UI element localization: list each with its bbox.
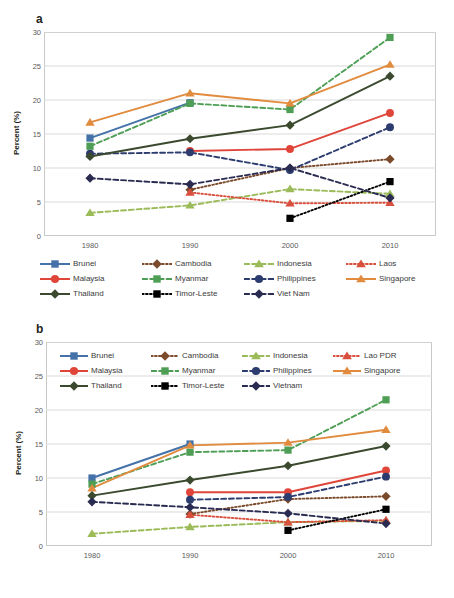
data-point: [382, 506, 389, 513]
x-tick-label: 1980: [84, 551, 101, 560]
legend-swatch: [333, 350, 361, 362]
legend-item-timor-leste[interactable]: Timor-Leste: [151, 378, 242, 393]
legend-item-philippines[interactable]: Philippines: [244, 271, 346, 286]
data-point: [186, 148, 194, 156]
legend-swatch: [60, 380, 88, 392]
legend-item-indonesia[interactable]: Indonesia: [242, 348, 333, 363]
legend-a: BruneiCambodiaIndonesiaLaosMalaysiaMyanm…: [40, 256, 448, 301]
legend-label: Philippines: [273, 366, 312, 375]
legend-item-singapore[interactable]: Singapore: [333, 363, 424, 378]
y-tick-label: 10: [33, 164, 41, 173]
y-tick-label: 15: [35, 440, 43, 449]
legend-swatch: [244, 273, 274, 285]
plot-area-b: 051015202530 1980199020002010 BruneiCamb…: [46, 342, 432, 546]
legend-label: Vietnam: [273, 381, 302, 390]
legend-item-timor-leste[interactable]: Timor-Leste: [142, 286, 244, 301]
legend-label: Myanmar: [175, 274, 208, 283]
data-point: [386, 109, 394, 117]
legend-item-myanmar[interactable]: Myanmar: [151, 363, 242, 378]
y-tick-label: 20: [35, 406, 43, 415]
y-tick-label: 30: [35, 338, 43, 347]
legend-item-philippines[interactable]: Philippines: [242, 363, 333, 378]
legend-label: Singapore: [364, 366, 400, 375]
legend-label: Lao PDR: [364, 351, 396, 360]
legend-swatch: [244, 258, 274, 270]
legend-swatch: [242, 365, 270, 377]
legend-item-lao-pdr[interactable]: Lao PDR: [333, 348, 424, 363]
legend-item-malaysia[interactable]: Malaysia: [40, 271, 142, 286]
legend-label: Timor-Leste: [182, 381, 224, 390]
legend-item-thailand[interactable]: Thailand: [40, 286, 142, 301]
y-tick-label: 25: [35, 372, 43, 381]
legend-item-malaysia[interactable]: Malaysia: [60, 363, 151, 378]
data-point: [186, 488, 194, 496]
legend-label: Laos: [379, 259, 396, 268]
data-point: [286, 145, 294, 153]
legend-swatch: [60, 365, 88, 377]
legend-item-brunei[interactable]: Brunei: [60, 348, 151, 363]
x-tick-label: 1980: [82, 241, 99, 250]
y-tick-label: 10: [35, 474, 43, 483]
legend-swatch: [244, 288, 274, 300]
legend-label: Timor-Leste: [175, 289, 217, 298]
chart-canvas-a: [44, 32, 436, 236]
legend-label: Thailand: [73, 289, 104, 298]
legend-label: Singapore: [379, 274, 415, 283]
data-point: [86, 134, 93, 141]
legend-item-singapore[interactable]: Singapore: [346, 271, 448, 286]
legend-swatch: [346, 273, 376, 285]
legend-label: Brunei: [91, 351, 114, 360]
y-axis-label-a: Percent (%): [12, 111, 21, 155]
legend-item-indonesia[interactable]: Indonesia: [244, 256, 346, 271]
legend-item-vietnam[interactable]: Vietnam: [242, 378, 333, 393]
legend-label: Malaysia: [91, 366, 123, 375]
legend-swatch: [40, 288, 70, 300]
legend-label: Malaysia: [73, 274, 105, 283]
y-tick-label: 15: [33, 130, 41, 139]
legend-item-thailand[interactable]: Thailand: [60, 378, 151, 393]
legend-item-myanmar[interactable]: Myanmar: [142, 271, 244, 286]
legend-swatch: [142, 288, 172, 300]
y-tick-label: 5: [39, 508, 43, 517]
legend-label: Brunei: [73, 259, 96, 268]
legend-swatch: [142, 258, 172, 270]
legend-swatch: [242, 380, 270, 392]
legend-swatch: [151, 350, 179, 362]
data-point: [186, 100, 193, 107]
data-point: [284, 493, 292, 501]
y-axis-label-b: Percent (%): [14, 431, 23, 475]
y-tick-label: 30: [33, 28, 41, 37]
legend-label: Thailand: [91, 381, 122, 390]
legend-swatch: [346, 258, 376, 270]
x-tick-label: 2010: [378, 551, 395, 560]
data-point: [382, 473, 390, 481]
panel-letter-a: a: [36, 12, 43, 26]
x-tick-label: 2000: [280, 551, 297, 560]
legend-item-brunei[interactable]: Brunei: [40, 256, 142, 271]
data-point: [286, 106, 293, 113]
legend-swatch: [333, 365, 361, 377]
legend-swatch: [151, 365, 179, 377]
x-tick-label: 1990: [182, 241, 199, 250]
y-tick-label: 0: [39, 542, 43, 551]
data-point: [382, 396, 389, 403]
data-point: [186, 496, 194, 504]
data-point: [286, 215, 293, 222]
legend-item-cambodia[interactable]: Cambodia: [142, 256, 244, 271]
plot-area-a: 051015202530 1980199020002010: [44, 32, 436, 236]
legend-label: Myanmar: [182, 366, 215, 375]
y-tick-label: 20: [33, 96, 41, 105]
panel-a: a Percent (%) 051015202530 1980199020002…: [0, 0, 454, 300]
data-point: [284, 447, 291, 454]
data-point: [386, 178, 393, 185]
y-tick-label: 5: [37, 198, 41, 207]
legend-label: Philippines: [277, 274, 316, 283]
legend-label: Indonesia: [273, 351, 308, 360]
legend-label: Cambodia: [175, 259, 211, 268]
legend-item-cambodia[interactable]: Cambodia: [151, 348, 242, 363]
legend-swatch: [142, 273, 172, 285]
legend-swatch: [40, 258, 70, 270]
legend-item-laos[interactable]: Laos: [346, 256, 448, 271]
panel-b: b Percent (%) 051015202530 1980199020002…: [0, 300, 454, 598]
legend-item-viet-nam[interactable]: Viet Nam: [244, 286, 346, 301]
